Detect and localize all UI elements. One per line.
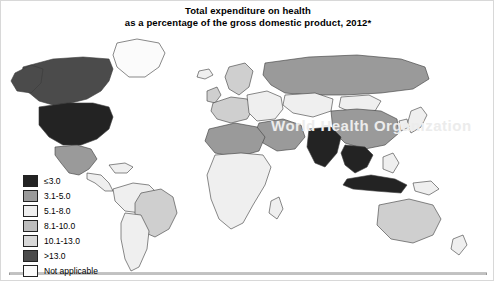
- legend-item: ≤3.0: [23, 173, 119, 188]
- region-north-africa: [205, 123, 265, 157]
- legend-label: 10.1-13.0: [44, 236, 80, 246]
- map-legend: ≤3.0 3.1-5.0 5.1-8.0 8.1-10.0 10.1-13.0 …: [23, 173, 119, 278]
- legend-swatch: [23, 235, 38, 247]
- legend-item: 8.1-10.0: [23, 218, 119, 233]
- legend-swatch: [23, 175, 38, 187]
- figure-title-line2: as a percentage of the gross domestic pr…: [1, 17, 494, 29]
- region-russia: [263, 55, 429, 95]
- legend-label: >13.0: [44, 251, 66, 261]
- legend-swatch: [23, 205, 38, 217]
- legend-swatch: [23, 265, 38, 277]
- legend-label: ≤3.0: [44, 176, 60, 186]
- legend-item: >13.0: [23, 248, 119, 263]
- legend-swatch: [23, 250, 38, 262]
- legend-item: 5.1-8.0: [23, 203, 119, 218]
- figure-title-line1: Total expenditure on health: [1, 5, 494, 17]
- legend-item: 3.1-5.0: [23, 188, 119, 203]
- legend-label: 5.1-8.0: [44, 206, 70, 216]
- legend-item: Not applicable: [23, 263, 119, 278]
- legend-swatch: [23, 220, 38, 232]
- legend-item: 10.1-13.0: [23, 233, 119, 248]
- map-figure: Total expenditure on health as a percent…: [0, 0, 494, 281]
- figure-title: Total expenditure on health as a percent…: [1, 5, 494, 29]
- legend-label: 3.1-5.0: [44, 191, 70, 201]
- legend-label: 8.1-10.0: [44, 221, 75, 231]
- legend-swatch: [23, 190, 38, 202]
- legend-label: Not applicable: [44, 266, 98, 276]
